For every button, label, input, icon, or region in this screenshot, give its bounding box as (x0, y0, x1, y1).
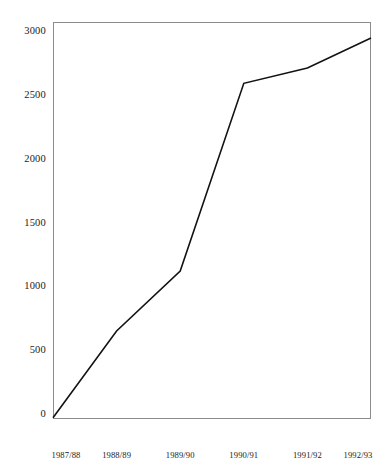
x-axis-tick-label: 1992/93 (344, 450, 373, 460)
y-axis-tick-label: 500 (0, 344, 46, 355)
y-axis-tick-label: 0 (0, 408, 46, 419)
x-axis-tick-label: 1991/92 (293, 450, 322, 460)
y-axis-tick-label: 3000 (0, 25, 46, 36)
x-axis-tick-label: 1987/88 (52, 450, 81, 460)
y-axis-tick-label: 2500 (0, 89, 46, 100)
y-axis-tick-label: 1500 (0, 217, 46, 228)
y-axis-tick-label: 2000 (0, 153, 46, 164)
line-chart: 050010001500200025003000 1987/881988/891… (0, 0, 387, 471)
x-axis-tick-label: 1988/89 (102, 450, 131, 460)
plot-area-frame (53, 22, 371, 419)
x-axis-tick-label: 1990/91 (229, 450, 258, 460)
y-axis-tick-label: 1000 (0, 280, 46, 291)
x-axis-tick-label: 1989/90 (166, 450, 195, 460)
